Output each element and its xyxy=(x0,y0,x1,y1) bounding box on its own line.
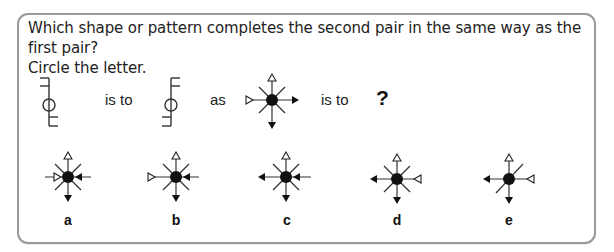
pair1-first-figure-icon xyxy=(30,74,80,130)
pair2-first-figure-icon xyxy=(245,72,301,132)
option-a-label[interactable]: a xyxy=(58,212,78,228)
question-line-2: Circle the letter. xyxy=(28,58,588,78)
as-label: as xyxy=(210,91,226,108)
option-a-figure-icon[interactable] xyxy=(41,151,97,203)
is-to-label-2: is to xyxy=(321,91,349,108)
option-b-figure-icon[interactable] xyxy=(147,151,203,203)
is-to-label-1: is to xyxy=(105,91,133,108)
pair1-second-figure-icon xyxy=(152,74,202,130)
question-line-1: Which shape or pattern completes the sec… xyxy=(28,18,588,58)
option-c-label[interactable]: c xyxy=(277,212,297,228)
question-text: Which shape or pattern completes the sec… xyxy=(28,18,588,78)
option-e-figure-icon[interactable] xyxy=(482,153,538,205)
option-e-label[interactable]: e xyxy=(499,212,519,228)
option-c-figure-icon[interactable] xyxy=(257,151,313,203)
option-d-figure-icon[interactable] xyxy=(369,153,425,205)
unknown-answer-mark: ? xyxy=(376,86,389,110)
option-d-label[interactable]: d xyxy=(387,212,407,228)
option-b-label[interactable]: b xyxy=(166,212,186,228)
